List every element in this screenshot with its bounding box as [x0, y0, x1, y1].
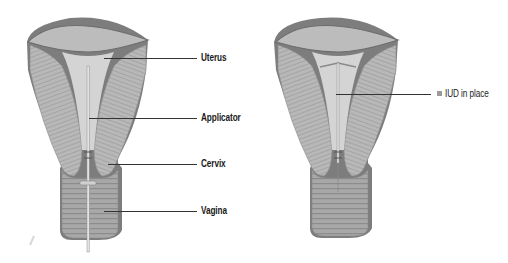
iud-in-place-label: IUD in place [445, 88, 489, 100]
applicator-leader-line [89, 118, 197, 119]
uterus-leader-line [104, 58, 197, 59]
iud-label-bullet-icon [437, 91, 442, 96]
cervix-label: Cervix [201, 158, 226, 170]
applicator-label: Applicator [201, 112, 241, 124]
uterus-with-applicator-illustration [0, 0, 260, 263]
in-place-figure [260, 0, 508, 263]
uterus-with-iud-illustration [260, 0, 508, 263]
uterus-label: Uterus [201, 52, 226, 64]
iud-leader-line [336, 94, 431, 95]
vagina-leader-line [104, 211, 197, 212]
insertion-figure [0, 0, 260, 263]
vagina-label: Vagina [201, 205, 227, 217]
cervix-leader-line [108, 164, 197, 165]
